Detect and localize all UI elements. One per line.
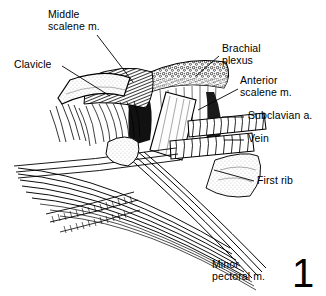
label-minor-pectoral: Minor pectoral m.	[212, 259, 265, 282]
anatomy-figure: Middle scalene m. Clavicle Brachial plex…	[0, 0, 326, 296]
label-first-rib: First rib	[257, 175, 293, 187]
label-subclavian-artery: Subclavian a.	[248, 110, 312, 122]
anatomy-illustration	[0, 0, 326, 296]
label-anterior-scalene: Anterior scalene m.	[240, 75, 292, 98]
label-vein: Vein	[248, 133, 269, 145]
label-brachial-plexus: Brachial plexus	[222, 43, 261, 66]
label-middle-scalene: Middle scalene m.	[48, 9, 100, 32]
figure-number: 1	[292, 253, 314, 293]
label-clavicle: Clavicle	[14, 59, 52, 71]
